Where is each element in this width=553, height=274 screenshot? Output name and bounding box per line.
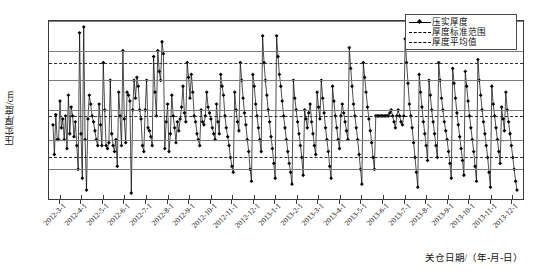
data-point-marker: [407, 102, 411, 106]
data-point-marker: [261, 34, 265, 38]
data-point-marker: [515, 188, 519, 192]
data-point-marker: [370, 141, 374, 145]
data-point-marker: [178, 117, 182, 121]
data-point-marker: [66, 93, 70, 97]
data-point-marker: [269, 135, 273, 139]
data-point-marker: [283, 126, 287, 130]
data-point-marker: [73, 120, 77, 124]
data-point-marker: [164, 120, 168, 124]
data-point-marker: [166, 102, 170, 106]
x-tick-mark-outer-16: [404, 200, 405, 204]
data-point-marker: [217, 132, 221, 136]
data-point-marker: [92, 120, 96, 124]
data-point-marker: [167, 150, 171, 154]
data-point-marker: [206, 105, 210, 109]
data-point-marker: [421, 120, 425, 124]
x-tick-label-14: 2013-5-1: [344, 202, 369, 227]
x-tick-mark-15: [383, 195, 384, 199]
data-point-marker: [286, 150, 290, 154]
x-tick-label-10: 2013-1-1: [258, 202, 283, 227]
data-point-marker: [315, 90, 319, 94]
legend: 压实厚度 厚度标准范围 厚度平均值: [405, 14, 517, 50]
legend-item-1: 厚度标准范围: [408, 27, 513, 37]
data-point-marker: [280, 99, 284, 103]
data-point-marker: [324, 126, 328, 130]
data-point-marker: [233, 90, 237, 94]
chart-root: 压实厚度/cm 95908885807975727065 2012-3-1201…: [0, 0, 553, 274]
data-point-marker: [120, 144, 124, 148]
data-point-marker: [189, 73, 193, 77]
x-tick-mark-outer-10: [274, 200, 275, 204]
data-point-marker: [501, 117, 505, 121]
y-tick-mark-79: [48, 116, 49, 117]
data-point-marker: [310, 120, 314, 124]
data-point-marker: [340, 102, 344, 106]
data-point-marker: [87, 93, 91, 97]
data-point-marker: [459, 147, 463, 151]
data-point-marker: [113, 150, 117, 154]
x-tick-mark-outer-0: [59, 200, 60, 204]
legend-item-0: 压实厚度: [408, 17, 513, 27]
gridline-65: [49, 199, 523, 200]
data-point-marker: [342, 111, 346, 115]
data-point-marker: [175, 120, 179, 124]
data-point-marker: [483, 132, 487, 136]
data-point-marker: [442, 120, 446, 124]
data-point-marker: [455, 111, 459, 115]
x-tick-mark-outer-19: [468, 200, 469, 204]
data-point-marker: [254, 102, 258, 106]
data-point-marker: [297, 132, 301, 136]
legend-symbol-dashed: [408, 37, 432, 47]
data-point-marker: [173, 126, 177, 130]
data-point-marker: [469, 126, 473, 130]
data-point-marker: [222, 93, 226, 97]
data-point-marker: [406, 81, 410, 85]
data-point-marker: [219, 73, 223, 77]
legend-label-2: 厚度平均值: [432, 37, 477, 47]
data-point-marker: [331, 84, 335, 88]
data-point-marker: [433, 132, 437, 136]
data-point-marker: [326, 150, 330, 154]
data-point-marker: [392, 120, 396, 124]
data-point-marker: [115, 164, 119, 168]
data-point-marker: [174, 141, 178, 145]
data-point-marker: [462, 173, 466, 177]
x-tick-mark-outer-2: [102, 200, 103, 204]
data-point-marker: [150, 144, 154, 148]
x-tick-mark-17: [426, 195, 427, 199]
x-tick-mark-outer-1: [80, 200, 81, 204]
data-point-marker: [454, 96, 458, 100]
data-point-marker: [475, 179, 479, 183]
data-point-marker: [298, 144, 302, 148]
x-tick-label-2: 2012-5-1: [85, 202, 110, 227]
y-tick-mark-65: [48, 199, 49, 200]
data-point-marker: [503, 129, 507, 133]
data-point-marker: [360, 182, 364, 186]
y-tick-mark-88: [48, 63, 49, 64]
x-tick-mark-outer-12: [317, 200, 318, 204]
data-point-marker: [210, 126, 214, 130]
data-point-marker: [417, 73, 421, 77]
data-point-marker: [343, 120, 347, 124]
x-tick-mark-16: [405, 195, 406, 199]
data-point-marker: [484, 144, 488, 148]
data-point-marker: [479, 93, 483, 97]
data-point-marker: [296, 120, 300, 124]
data-point-marker: [338, 147, 342, 151]
data-point-marker: [251, 73, 255, 77]
x-tick-mark-19: [469, 195, 470, 199]
x-tick-mark-outer-3: [123, 200, 124, 204]
x-tick-mark-13: [340, 195, 341, 199]
legend-label-0: 压实厚度: [432, 17, 468, 27]
x-tick-mark-21: [512, 195, 513, 199]
x-tick-mark-7: [211, 195, 212, 199]
data-point-marker: [301, 173, 305, 177]
data-point-marker: [110, 132, 114, 136]
data-point-marker: [456, 123, 460, 127]
data-point-marker: [423, 132, 427, 136]
data-point-marker: [466, 99, 470, 103]
data-point-marker: [51, 123, 55, 127]
data-point-marker: [198, 144, 202, 148]
x-tick-label-1: 2012-4-1: [64, 202, 89, 227]
gridline-80: [49, 110, 523, 111]
